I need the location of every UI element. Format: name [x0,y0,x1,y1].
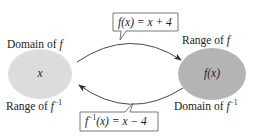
domain-of-f-label: Domain of f [7,39,63,51]
forward-arrow [77,43,181,62]
inverse-function-diagram: Domain of f x Range of f−1 Range of f f(… [0,0,253,139]
inverse-function-formula: f−1(x) = x − 4 [85,116,147,128]
domain-element-x: x [34,68,46,80]
range-element-fx: f(x) [196,68,228,80]
forward-function-formula: f(x) = x + 4 [118,17,172,29]
inverse-arrow [79,85,183,104]
range-of-f-inverse-label: Range of f−1 [6,101,62,113]
range-of-f-label: Range of f [182,35,230,47]
domain-of-f-inverse-label: Domain of f−1 [174,101,238,113]
